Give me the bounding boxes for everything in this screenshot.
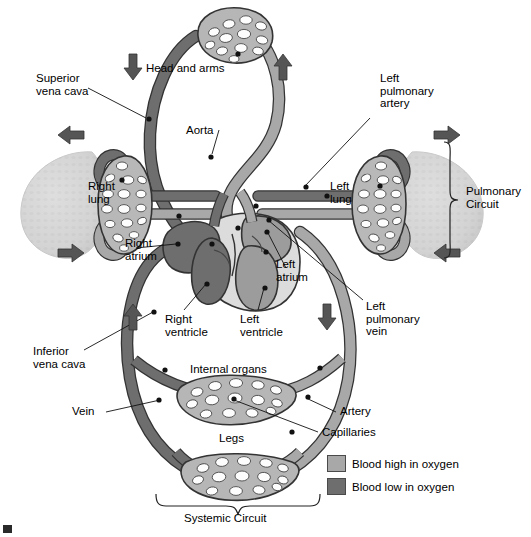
label-internal-organs: Internal organs: [190, 363, 267, 376]
legend-label-oxygen-low: Blood low in oxygen: [352, 481, 454, 494]
label-capillaries: Capillaries: [322, 426, 376, 439]
right-lung-inflow-arrow: [58, 126, 84, 144]
label-inferior-vena-cava: Inferior vena cava: [33, 345, 85, 370]
label-superior-vena-cava: Superior vena cava: [36, 72, 88, 97]
legend-label-oxygen-high: Blood high in oxygen: [352, 458, 459, 471]
label-pulmonary-circuit: Pulmonary Circuit: [466, 185, 521, 210]
label-left-lung: Left lung: [330, 180, 352, 205]
label-artery: Artery: [340, 405, 371, 418]
descending-aorta-arrow: [318, 304, 336, 330]
label-left-ventricle: Left ventricle: [240, 313, 283, 338]
label-right-ventricle: Right ventricle: [165, 313, 208, 338]
legs-branch: [176, 452, 300, 500]
label-left-atrium: Left atrium: [276, 258, 308, 283]
descending-head-arrow: [124, 54, 142, 80]
legend-swatch-oxygen-high: [327, 455, 346, 472]
label-vein: Vein: [72, 405, 94, 418]
left-lung-capillary-bed: [352, 156, 406, 254]
label-legs: Legs: [219, 432, 244, 445]
label-left-pulmonary-vein: Left pulmonary vein: [366, 300, 420, 338]
label-right-lung: Right lung: [88, 180, 115, 205]
legend-swatch-oxygen-low: [327, 478, 346, 495]
circulatory-system-figure: Superior vena cava Head and arms Left pu…: [0, 0, 531, 537]
label-left-pulmonary-artery: Left pulmonary artery: [380, 72, 434, 110]
label-systemic-circuit: Systemic Circuit: [184, 512, 266, 525]
label-right-atrium: Right atrium: [125, 237, 157, 262]
corner-crop-mark: [3, 525, 12, 533]
label-aorta: Aorta: [186, 124, 214, 137]
left-lung-inflow-arrow: [434, 126, 460, 144]
label-head-and-arms: Head and arms: [146, 62, 225, 75]
